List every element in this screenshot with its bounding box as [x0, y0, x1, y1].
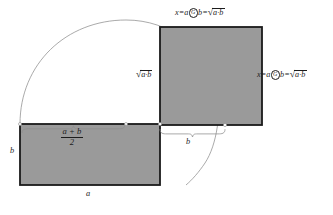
label-top-equation: x=aGb=√a·b — [175, 8, 225, 18]
label-center-radical: √a·b — [136, 70, 152, 80]
radical-sign-icon: √ — [136, 70, 141, 80]
figure-canvas: x=aGb=√a·b x=aGb=√a·b √a·b a + b 2 b b a — [0, 0, 333, 215]
right-eq-operand-left: a — [266, 70, 270, 79]
circled-geometric-mean-operator-icon: G — [189, 8, 198, 17]
label-right-equation: x=aGb=√a·b — [257, 70, 307, 80]
fraction-denominator: 2 — [61, 137, 83, 148]
fraction-arithmetic-mean: a + b 2 — [61, 127, 83, 147]
top-eq-operand-left: a — [184, 8, 188, 17]
label-a-bottom: a — [86, 190, 90, 198]
center-radical: √a·b — [136, 70, 152, 80]
corner-node-left — [19, 123, 22, 126]
radical-sign-icon: √ — [290, 70, 295, 80]
right-eq-radicand: a·b — [294, 70, 307, 80]
circled-geometric-mean-operator-icon: G — [271, 70, 280, 79]
center-radicand: a·b — [140, 70, 152, 80]
brace-b-segment — [160, 129, 225, 137]
square-geometric-mean — [160, 27, 262, 125]
geometry-figure — [0, 0, 333, 215]
corner-node-center — [158, 122, 161, 125]
operator-letter: G — [189, 8, 198, 17]
label-b-brace: b — [186, 138, 190, 146]
top-eq-radical: √a·b — [208, 8, 225, 18]
corner-node-right — [223, 123, 226, 126]
rectangle-a-times-b — [20, 124, 160, 185]
top-eq-radicand: a·b — [212, 8, 225, 18]
right-eq-radical: √a·b — [290, 70, 307, 80]
fraction-numerator: a + b — [61, 127, 83, 137]
label-b-side: b — [10, 147, 14, 155]
label-arithmetic-mean: a + b 2 — [61, 127, 83, 147]
operator-letter: G — [271, 70, 280, 79]
radical-sign-icon: √ — [208, 8, 213, 18]
